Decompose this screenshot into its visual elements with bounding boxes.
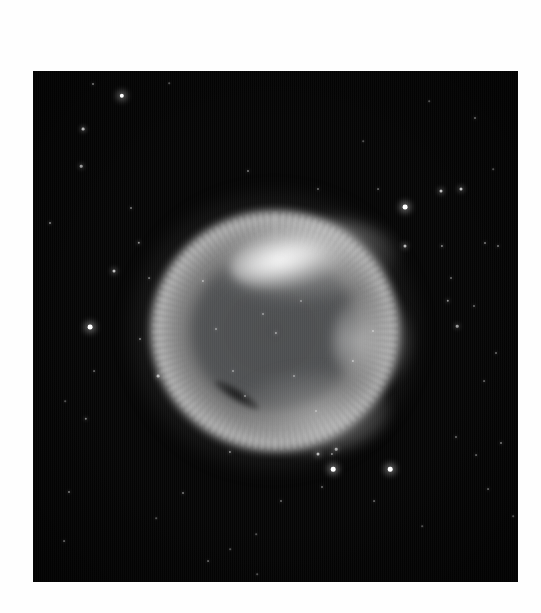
star-point: [331, 467, 336, 472]
star-point: [229, 548, 231, 550]
star-point: [280, 500, 282, 502]
star-point: [85, 418, 87, 420]
star-point: [168, 82, 170, 84]
star-point: [120, 94, 124, 98]
star-point: [352, 360, 354, 362]
star-point: [49, 222, 51, 224]
star-point: [229, 451, 231, 453]
star-point: [456, 325, 459, 328]
star-point: [497, 245, 499, 247]
star-point: [92, 83, 94, 85]
nebula-inner-cavity: [191, 253, 357, 409]
nebula-dark-lane: [212, 376, 262, 414]
star-point: [483, 380, 485, 382]
star-point: [512, 515, 514, 517]
star-field: [33, 71, 518, 582]
star-point: [113, 270, 116, 273]
frame-vignette: [33, 71, 518, 582]
star-point: [215, 328, 217, 330]
star-point: [428, 100, 430, 102]
star-point: [155, 517, 157, 519]
scan-line-texture: [33, 71, 518, 582]
star-point: [317, 453, 320, 456]
star-point: [373, 500, 375, 502]
star-point: [460, 188, 463, 191]
nebula-south-rim-brightening: [238, 371, 388, 451]
star-point: [88, 325, 93, 330]
star-point: [335, 448, 338, 451]
star-point: [315, 410, 317, 412]
nebula-radial-filaments: [151, 211, 399, 451]
star-point: [492, 168, 494, 170]
star-point: [473, 305, 475, 307]
star-point: [447, 300, 449, 302]
star-point: [244, 395, 246, 397]
star-point: [331, 453, 333, 455]
star-point: [63, 540, 65, 542]
nebula-main-ring: [151, 211, 399, 451]
star-point: [293, 375, 295, 377]
star-point: [440, 190, 443, 193]
star-point: [130, 207, 132, 209]
star-point: [247, 170, 249, 172]
star-point: [255, 533, 257, 535]
star-point: [80, 165, 83, 168]
nebula-outer-halo: [129, 191, 419, 471]
star-point: [495, 352, 497, 354]
star-point: [207, 560, 209, 562]
star-point: [500, 442, 502, 444]
astronomy-photo: [33, 71, 518, 582]
star-point: [474, 117, 476, 119]
star-point: [93, 370, 95, 372]
star-point: [487, 488, 489, 490]
star-point: [475, 454, 477, 456]
star-point: [388, 467, 393, 472]
star-point: [362, 140, 364, 142]
star-point: [275, 332, 277, 334]
nebula-east-rim-brightening: [333, 293, 411, 389]
nebula-top-bright-arc: [209, 212, 401, 311]
star-point: [138, 242, 140, 244]
nebula-bright-knot: [224, 217, 353, 299]
star-point: [403, 205, 408, 210]
star-point: [182, 492, 184, 494]
star-point: [262, 313, 264, 315]
star-point: [202, 280, 204, 282]
star-point: [300, 300, 302, 302]
star-point: [372, 330, 374, 332]
page-canvas: [0, 0, 541, 613]
star-point: [404, 245, 407, 248]
star-point: [64, 400, 66, 402]
star-point: [82, 128, 85, 131]
star-point: [441, 245, 443, 247]
star-point: [68, 491, 70, 493]
star-point: [232, 370, 234, 372]
star-point: [450, 277, 452, 279]
star-point: [321, 486, 323, 488]
star-point: [377, 188, 379, 190]
star-point: [455, 436, 457, 438]
star-point: [317, 188, 319, 190]
star-point: [256, 573, 258, 575]
star-point: [157, 375, 160, 378]
star-point: [421, 525, 423, 527]
star-point: [484, 242, 486, 244]
star-point: [148, 277, 150, 279]
star-point: [139, 338, 141, 340]
